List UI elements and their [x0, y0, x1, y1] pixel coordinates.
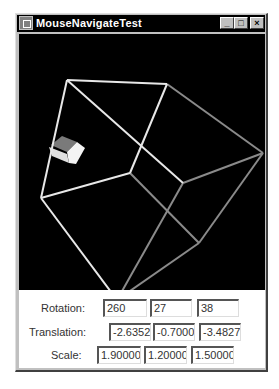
translation-y-field[interactable]: -0.70009 [153, 323, 195, 341]
title-bar[interactable]: MouseNavigateTest _ □ × [17, 15, 265, 32]
window-title: MouseNavigateTest [36, 15, 142, 32]
rotation-x-field[interactable]: 260 [103, 299, 147, 317]
translation-label: Translation: [29, 326, 86, 338]
back-edges [117, 84, 263, 290]
close-button[interactable]: × [250, 17, 264, 29]
minimize-button[interactable]: _ [220, 17, 234, 29]
3d-canvas[interactable] [19, 34, 265, 290]
translation-x-field[interactable]: -2.63520 [109, 323, 151, 341]
scale-y-field[interactable]: 1.20000 [144, 346, 187, 364]
translation-row: Translation: -2.63520 -0.70009 -3.48274 [19, 323, 265, 343]
scene-graphic [19, 34, 265, 290]
transform-panel: Rotation: 260 27 38 Translation: -2.6352… [19, 290, 265, 368]
rotation-y-field[interactable]: 27 [150, 299, 192, 317]
scale-label: Scale: [51, 349, 82, 361]
java-app-icon[interactable] [19, 16, 33, 30]
front-edges [41, 80, 183, 290]
translation-z-field[interactable]: -3.48274 [199, 323, 241, 341]
scale-x-field[interactable]: 1.90000 [97, 346, 141, 364]
rotation-z-field[interactable]: 38 [197, 299, 239, 317]
maximize-button[interactable]: □ [234, 17, 248, 29]
scale-z-field[interactable]: 1.50000 [191, 346, 234, 364]
scale-row: Scale: 1.90000 1.20000 1.50000 [19, 346, 265, 366]
rotation-label: Rotation: [41, 302, 85, 314]
app-window: MouseNavigateTest _ □ × Rotation: 260 27… [15, 13, 268, 372]
rotation-row: Rotation: 260 27 38 [19, 299, 265, 319]
